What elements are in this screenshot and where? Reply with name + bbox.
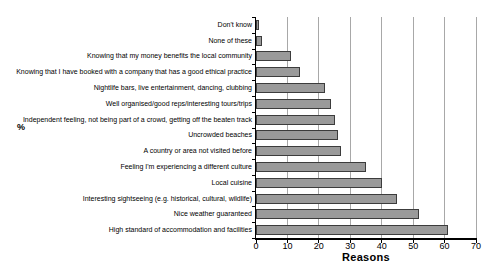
bar <box>256 99 331 109</box>
category-label: Local cuisine <box>0 178 252 188</box>
gridline <box>381 17 382 238</box>
bar <box>256 162 366 172</box>
bar <box>256 146 341 156</box>
category-label: Knowing that my money benefits the local… <box>0 51 252 61</box>
bar <box>256 20 259 30</box>
category-label: Don't know <box>0 20 252 30</box>
category-label: Well organised/good reps/interesting tou… <box>0 99 252 109</box>
category-label: Uncrowded beaches <box>0 130 252 140</box>
y-axis-line <box>255 17 256 239</box>
bar <box>256 51 291 61</box>
gridline <box>476 17 477 238</box>
category-label: None of these <box>0 36 252 46</box>
bar <box>256 115 335 125</box>
x-tick-label: 30 <box>335 241 365 251</box>
category-label: Nice weather guaranteed <box>0 209 252 219</box>
x-tick-label: 70 <box>461 241 491 251</box>
gridline <box>318 17 319 238</box>
bar <box>256 67 300 77</box>
category-label: Nightlife bars, live entertainment, danc… <box>0 83 252 93</box>
category-label: Interesting sightseeing (e.g. historical… <box>0 194 252 204</box>
gridline <box>413 17 414 238</box>
category-label: Feeling I'm experiencing a different cul… <box>0 162 252 172</box>
x-tick-label: 50 <box>398 241 428 251</box>
gridline <box>444 17 445 238</box>
bar <box>256 130 338 140</box>
bar <box>256 209 419 219</box>
x-axis-label: Reasons <box>256 251 476 263</box>
category-label: A country or area not visited before <box>0 146 252 156</box>
x-tick-label: 10 <box>272 241 302 251</box>
x-tick-label: 0 <box>241 241 271 251</box>
category-label: High standard of accommodation and facil… <box>0 225 252 235</box>
x-tick-label: 60 <box>430 241 460 251</box>
gridline <box>287 17 288 238</box>
gridline <box>350 17 351 238</box>
bar <box>256 178 382 188</box>
category-label: Knowing that I have booked with a compan… <box>0 67 252 77</box>
x-tick-label: 20 <box>304 241 334 251</box>
bar <box>256 194 397 204</box>
bar <box>256 225 448 235</box>
bar <box>256 36 262 46</box>
category-label: Independent feeling, not being part of a… <box>0 115 252 125</box>
bar <box>256 83 325 93</box>
bar-chart: % Reasons Don't knowNone of theseKnowing… <box>0 0 498 278</box>
x-tick-label: 40 <box>367 241 397 251</box>
